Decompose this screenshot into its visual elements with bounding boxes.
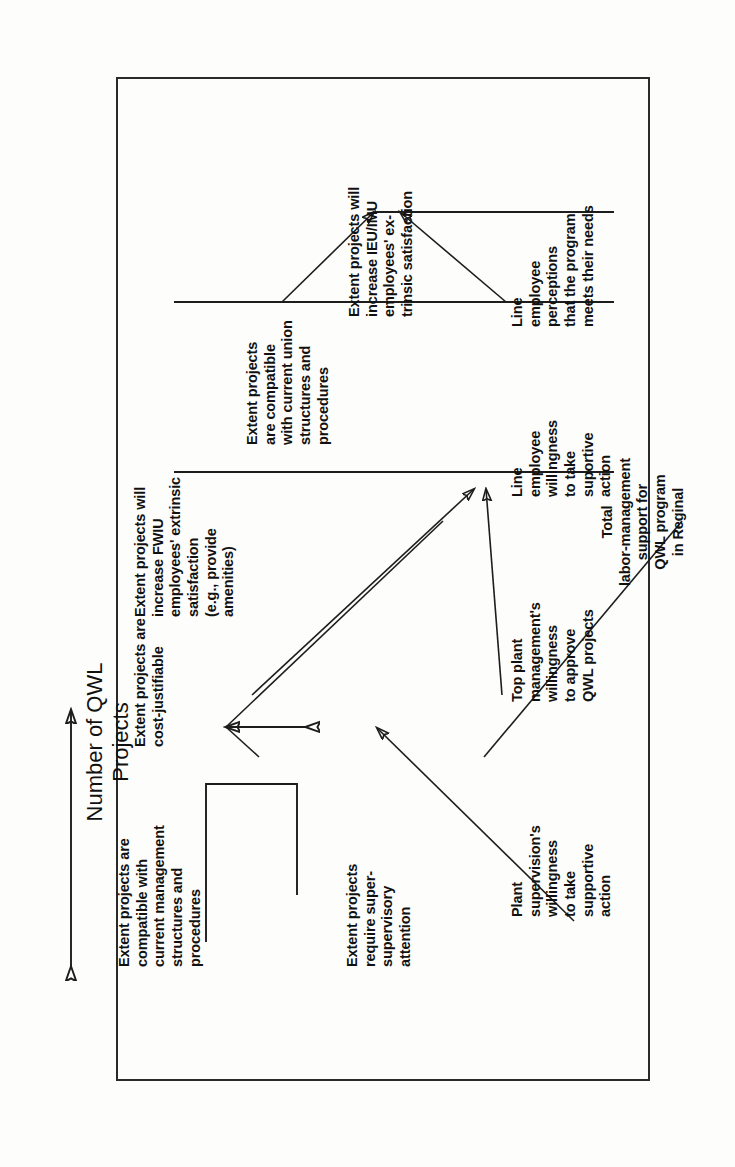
link-to-supervisory-attention (226, 521, 443, 727)
node-ieu-imu-extrinsic-satisfaction: Extent projects will increase IEU/IMU em… (346, 107, 417, 317)
node-compatible-management: Extent projects are compatible with curr… (116, 777, 204, 967)
scanned-page: Number of QWL Projects Extent projects a… (0, 0, 735, 1167)
bracket-upper-group (220, 784, 297, 895)
node-line-employee-perceptions: Line employee perceptions that the progr… (509, 117, 597, 327)
node-top-plant-management-willingness: Top plant management's willingness to ap… (509, 527, 597, 702)
arrow-lower-to-management-hub (486, 489, 502, 695)
bracket-lower-group (206, 784, 279, 942)
link-upper-cluster-to-hub (226, 727, 259, 757)
node-compatible-union: Extent projects are compatible with curr… (244, 255, 332, 445)
node-plant-supervision-willingness: Plant supervision's willingness to take … (509, 757, 615, 917)
node-fwiu-extrinsic-satisfaction: Extent projects will increase FWIU emplo… (132, 417, 238, 617)
arrow-upper-to-management-hub (252, 489, 474, 695)
node-require-supervisory-attention: Extent projects require super- superviso… (344, 797, 415, 967)
qwl-causal-diagram: Number of QWL Projects Extent projects a… (54, 50, 681, 1117)
node-total-labor-management-support: Total labor-management support for QWL p… (599, 407, 687, 637)
rotated-diagram-wrapper: Number of QWL Projects Extent projects a… (54, 50, 681, 1117)
